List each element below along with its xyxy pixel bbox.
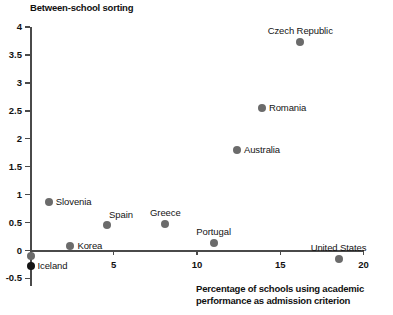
y-axis-tick xyxy=(25,250,30,251)
x-axis-tick-label: 15 xyxy=(275,259,286,270)
data-point[interactable] xyxy=(233,146,241,154)
y-axis-tick-label: 3.5 xyxy=(9,49,22,60)
data-point-label: Romania xyxy=(269,102,306,113)
y-axis-tick xyxy=(25,222,30,223)
y-axis-tick-label: 0.5 xyxy=(9,217,22,228)
x-axis-tick-label: 20 xyxy=(358,259,369,270)
y-axis-tick xyxy=(25,82,30,83)
y-axis-tick xyxy=(25,26,30,27)
y-axis-tick-label: -0.5 xyxy=(6,272,22,283)
x-axis-tick xyxy=(196,250,197,255)
x-axis-tick xyxy=(113,250,114,255)
y-axis-tick-label: 1 xyxy=(17,189,22,200)
data-point[interactable] xyxy=(335,255,343,263)
y-axis-line xyxy=(30,27,32,286)
x-axis-title-line-1: Percentage of schools using academic xyxy=(196,283,364,294)
data-point-label: Australia xyxy=(244,144,280,155)
y-axis-tick-label: 2 xyxy=(17,133,22,144)
y-axis-tick-label: 2.5 xyxy=(9,105,22,116)
y-axis-tick xyxy=(25,54,30,55)
x-axis-tick xyxy=(280,250,281,255)
y-axis-tick-label: 1.5 xyxy=(9,161,22,172)
data-point-label: Czech Republic xyxy=(268,25,333,36)
y-axis-tick xyxy=(25,110,30,111)
data-point[interactable] xyxy=(210,239,218,247)
data-point-label: Greece xyxy=(150,207,181,218)
data-point-label: Slovenia xyxy=(56,196,92,207)
scatter-chart: Between-school sorting -0.500.511.522.53… xyxy=(0,0,393,315)
y-axis-tick-label: 3 xyxy=(17,77,22,88)
y-axis-tick xyxy=(25,138,30,139)
x-axis-tick-label: 5 xyxy=(111,259,116,270)
y-axis-tick xyxy=(25,166,30,167)
x-axis-tick-label: 10 xyxy=(192,259,203,270)
data-point-label: United States xyxy=(311,242,367,253)
x-axis-title: Percentage of schools using academic per… xyxy=(196,283,388,306)
y-axis-tick xyxy=(25,194,30,195)
data-point[interactable] xyxy=(103,221,111,229)
data-point-label: Portugal xyxy=(196,226,231,237)
data-point-label: Korea xyxy=(77,240,102,251)
data-point[interactable] xyxy=(66,242,74,250)
data-point[interactable] xyxy=(296,38,304,46)
data-point[interactable] xyxy=(27,252,35,260)
y-axis-tick xyxy=(25,278,30,279)
data-point[interactable] xyxy=(27,262,35,270)
y-axis-title: Between-school sorting xyxy=(30,2,133,13)
data-point[interactable] xyxy=(45,198,53,206)
y-axis-tick-label: 0 xyxy=(17,245,22,256)
data-point-label: Iceland xyxy=(38,260,68,271)
data-point[interactable] xyxy=(258,104,266,112)
data-point-label: Spain xyxy=(109,209,133,220)
y-axis-tick-label: 4 xyxy=(17,21,22,32)
x-axis-title-line-2: performance as admission criterion xyxy=(196,295,350,306)
data-point[interactable] xyxy=(161,220,169,228)
